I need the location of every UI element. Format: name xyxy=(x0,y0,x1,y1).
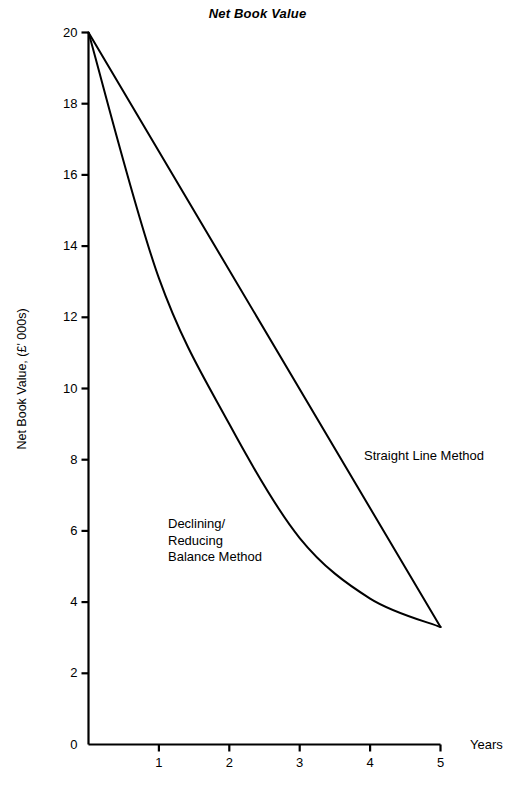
x-tick-label: 5 xyxy=(431,756,451,769)
y-tick-label: 8 xyxy=(48,453,78,466)
y-tick-label: 10 xyxy=(48,382,78,395)
x-tick-label: 3 xyxy=(290,756,310,769)
x-tick-label: 2 xyxy=(219,756,239,769)
x-tick-label: 4 xyxy=(360,756,380,769)
y-tick-label: 6 xyxy=(48,524,78,537)
y-tick-label: 0 xyxy=(48,738,78,751)
y-tick-label: 14 xyxy=(48,239,78,252)
chart-title: Net Book Value xyxy=(0,6,515,21)
x-tick-label: 1 xyxy=(149,756,169,769)
chart-figure: Net Book Value Net Book Value, (£' 000s)… xyxy=(0,0,515,789)
y-tick-label: 16 xyxy=(48,168,78,181)
x-axis-label: Years xyxy=(470,737,503,752)
y-axis-label: Net Book Value, (£' 000s) xyxy=(15,269,29,489)
y-tick-label: 2 xyxy=(48,666,78,679)
series-annotation-declining-balance: Declining/ Reducing Balance Method xyxy=(168,516,262,566)
series-annotation-straight-line: Straight Line Method xyxy=(364,448,484,465)
series-line-straight-line xyxy=(89,33,441,628)
y-tick-label: 4 xyxy=(48,595,78,608)
y-tick-label: 18 xyxy=(48,97,78,110)
y-tick-label: 12 xyxy=(48,310,78,323)
y-tick-label: 20 xyxy=(48,26,78,39)
